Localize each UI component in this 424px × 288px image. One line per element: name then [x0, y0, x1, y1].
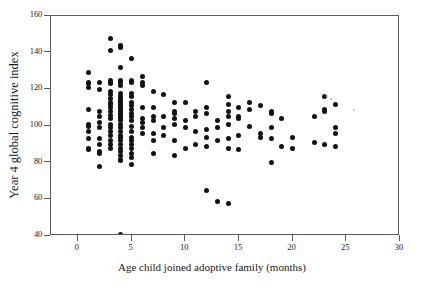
data-point: [258, 135, 263, 140]
scan-speck: [353, 109, 355, 111]
data-point: [151, 151, 156, 156]
data-point: [204, 105, 209, 110]
data-point: [269, 160, 274, 165]
data-point: [333, 125, 338, 130]
data-point: [118, 232, 123, 234]
plot-area: [50, 15, 399, 235]
data-point: [172, 138, 177, 143]
data-point: [183, 125, 188, 130]
y-axis-tick-label: 40: [12, 230, 42, 239]
data-point: [236, 105, 241, 110]
data-point: [140, 105, 145, 110]
scatter-plot-figure: Year 4 global cognitive index 4060801001…: [0, 0, 424, 288]
data-point: [269, 125, 274, 130]
data-point: [204, 144, 209, 149]
data-point: [97, 120, 102, 125]
x-axis-title: Age child joined adoptive family (months…: [0, 261, 424, 274]
data-point: [118, 65, 123, 70]
data-point: [204, 188, 209, 193]
data-point: [108, 36, 113, 41]
data-point: [215, 125, 220, 130]
data-point: [86, 107, 91, 112]
x-axis-tick-label: 20: [280, 243, 304, 252]
data-point: [269, 136, 274, 141]
x-axis-tick-label: 30: [387, 243, 411, 252]
data-point: [226, 94, 231, 99]
data-point: [204, 80, 209, 85]
data-point: [215, 118, 220, 123]
data-point: [333, 131, 338, 136]
data-point: [97, 164, 102, 169]
data-point: [129, 118, 134, 123]
data-point: [193, 114, 198, 119]
data-point: [86, 85, 91, 90]
x-axis-tick: [131, 235, 132, 241]
data-point: [97, 151, 102, 156]
data-point: [183, 118, 188, 123]
data-point: [236, 116, 241, 121]
data-point: [129, 124, 134, 129]
data-point: [279, 116, 284, 121]
data-point: [86, 124, 91, 129]
data-point: [140, 74, 145, 79]
data-point: [333, 102, 338, 107]
data-point: [333, 144, 338, 149]
data-point: [108, 146, 113, 151]
data-point: [172, 100, 177, 105]
x-axis-tick: [292, 235, 293, 241]
data-point: [151, 105, 156, 110]
data-point: [236, 133, 241, 138]
data-point: [108, 81, 113, 86]
data-point: [312, 140, 317, 145]
data-point: [247, 100, 252, 105]
y-axis-tick-label: 80: [12, 157, 42, 166]
data-point: [226, 136, 231, 141]
data-point: [226, 114, 231, 119]
data-point: [226, 102, 231, 107]
data-points-layer: [51, 16, 398, 234]
data-point: [118, 158, 123, 163]
data-point: [226, 146, 231, 151]
data-point: [226, 122, 231, 127]
data-point: [129, 80, 134, 85]
data-point: [322, 142, 327, 147]
data-point: [290, 135, 295, 140]
x-axis-tick-label: 10: [172, 243, 196, 252]
data-point: [226, 109, 231, 114]
data-point: [204, 127, 209, 132]
data-point: [172, 116, 177, 121]
x-axis-tick: [345, 235, 346, 241]
x-axis-tick-label: 25: [333, 243, 357, 252]
x-axis-tick-label: 15: [226, 243, 250, 252]
data-point: [97, 109, 102, 114]
data-point: [129, 155, 134, 160]
data-point: [204, 111, 209, 116]
data-point: [140, 83, 145, 88]
data-point: [129, 56, 134, 61]
data-point: [183, 146, 188, 151]
data-point: [129, 162, 134, 167]
y-axis-tick-label: 160: [12, 10, 42, 19]
data-point: [172, 122, 177, 127]
x-axis-tick: [399, 235, 400, 241]
x-axis-tick: [184, 235, 185, 241]
x-axis-tick-label: 0: [65, 243, 89, 252]
data-point: [172, 111, 177, 116]
data-point: [215, 138, 220, 143]
scan-speck: [326, 95, 328, 97]
x-axis-tick: [77, 235, 78, 241]
data-point: [247, 107, 252, 112]
data-point: [322, 109, 327, 114]
data-point: [258, 103, 263, 108]
data-point: [290, 146, 295, 151]
data-point: [97, 136, 102, 141]
data-point: [97, 125, 102, 130]
data-point: [193, 109, 198, 114]
data-point: [161, 133, 166, 138]
scan-speck: [330, 98, 332, 100]
data-point: [86, 136, 91, 141]
data-point: [183, 100, 188, 105]
data-point: [226, 201, 231, 206]
data-point: [151, 118, 156, 123]
data-point: [151, 89, 156, 94]
